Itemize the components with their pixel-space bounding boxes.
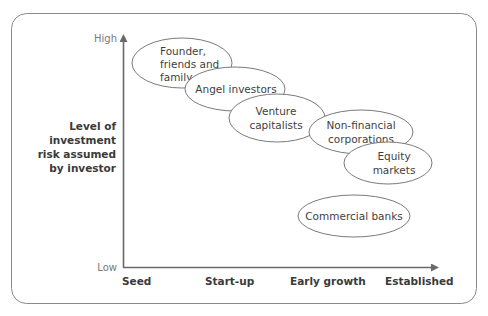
y-axis-title: Level of investment risk assumed by inve… — [38, 120, 117, 174]
svg-text:risk assumed: risk assumed — [38, 148, 116, 160]
svg-text:Venture: Venture — [256, 105, 297, 117]
svg-text:Equity: Equity — [377, 150, 410, 162]
svg-text:Founder,: Founder, — [160, 45, 206, 57]
node-commercial-banks: Commercial banks — [298, 195, 410, 237]
y-axis-high-label: High — [94, 33, 117, 44]
y-axis-low-label: Low — [97, 262, 117, 273]
x-tick-early-growth: Early growth — [290, 275, 366, 287]
diagram-canvas: High Low Level of investment risk assume… — [0, 0, 488, 316]
node-equity-markets: Equity markets — [344, 142, 432, 184]
svg-text:friends and: friends and — [160, 58, 219, 70]
svg-text:investment: investment — [49, 134, 116, 146]
svg-text:Non-financial: Non-financial — [326, 119, 395, 131]
svg-text:Level of: Level of — [69, 120, 116, 132]
x-tick-seed: Seed — [122, 275, 151, 287]
x-tick-start-up: Start-up — [205, 275, 255, 287]
svg-text:by investor: by investor — [49, 162, 117, 174]
svg-text:capitalists: capitalists — [249, 119, 302, 131]
svg-text:markets: markets — [373, 164, 416, 176]
x-tick-established: Established — [385, 275, 454, 287]
svg-text:Commercial banks: Commercial banks — [305, 210, 402, 222]
svg-text:Angel investors: Angel investors — [195, 83, 276, 95]
